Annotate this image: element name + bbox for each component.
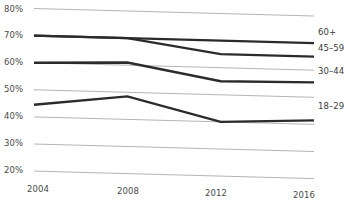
data-line-group [34,36,314,122]
gridline-60 [34,63,314,70]
xtick-label-2016: 2016 [286,190,322,200]
line-chart: 80% 70% 60% 50% 40% 30% 20% 2004 2008 20… [0,0,346,205]
legend-label-30-44: 30–44 [318,66,344,76]
gridline-30 [34,144,314,152]
ytick-label-80: 80% [4,4,23,14]
ytick-label-40: 40% [4,111,23,121]
ytick-label-50: 50% [4,84,23,94]
ytick-label-60: 60% [4,57,23,67]
legend-label-60-plus: 60+ [318,27,336,37]
xtick-label-2008: 2008 [110,186,146,196]
legend-label-18-29: 18–29 [318,101,344,111]
ytick-label-20: 20% [4,165,23,175]
gridline-50 [34,90,314,98]
gridline-group [34,9,314,179]
legend-label-45-59: 45–59 [318,43,344,53]
gridline-20 [34,171,314,179]
ytick-label-70: 70% [4,30,23,40]
xtick-label-2012: 2012 [198,188,234,198]
gridline-80 [34,9,314,17]
xtick-label-2004: 2004 [20,184,56,194]
chart-plot-area [0,0,346,205]
ytick-label-30: 30% [4,138,23,148]
data-line-30-44 [34,62,314,82]
